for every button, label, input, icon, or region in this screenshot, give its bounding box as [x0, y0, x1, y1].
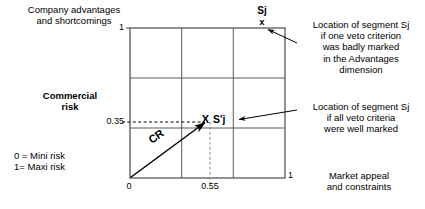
figure-canvas: Company advantages and shortcomings Mark…: [0, 0, 425, 209]
x-axis-title-line1: Market appeal: [329, 170, 389, 181]
annotation-sprimej: Location of segment Sj if all veto crite…: [300, 101, 422, 135]
point-label-sprimej: S'j: [213, 113, 239, 125]
annotation-sprimej-line3: were well marked: [324, 123, 398, 134]
annotation-sj: Location of segment Sj if one veto crite…: [300, 19, 422, 75]
y-axis-tick-035: 0.35: [92, 116, 124, 127]
x-axis-tick-055: 0.55: [196, 181, 224, 192]
y-axis-title-line2: and shortcomings: [37, 15, 112, 26]
point-marker-sj: x: [255, 16, 269, 27]
risk-scale-legend: 0 = Mini risk 1= Maxi risk: [14, 150, 124, 172]
point-marker-sprimej: X: [199, 113, 212, 126]
annotation-sprimej-line2: if all veto criteria: [327, 112, 396, 123]
grid-lines-vertical: [182, 28, 234, 178]
leader-line-sj: [268, 30, 297, 44]
annotation-sj-line4: in the Advantages: [323, 53, 399, 64]
plot-frame: [130, 28, 285, 178]
commercial-risk-label: Commercial risk: [18, 90, 122, 112]
annotation-sj-line5: dimension: [339, 64, 382, 75]
x-axis-title-line2: and constraints: [327, 181, 391, 192]
commercial-risk-line1: Commercial: [43, 90, 97, 101]
cr-vector-arrow: [131, 123, 206, 178]
annotation-sprimej-line1: Location of segment Sj: [313, 101, 410, 112]
x-axis-tick-0: 0: [122, 181, 136, 192]
annotation-sj-line1: Location of segment Sj: [313, 19, 410, 30]
x-axis-title: Market appeal and constraints: [300, 170, 418, 192]
x-axis-tick-1: 1: [288, 170, 300, 181]
risk-legend-line2: 1= Maxi risk: [14, 161, 65, 172]
risk-legend-line1: 0 = Mini risk: [14, 150, 65, 161]
commercial-risk-line2: risk: [62, 101, 79, 112]
annotation-sj-line2: if one veto criterion: [321, 30, 401, 41]
y-axis-title-line1: Company advantages: [28, 4, 120, 15]
leader-line-sprimej: [239, 110, 297, 120]
annotation-sj-line3: was badly marked: [323, 41, 400, 52]
y-axis-tick-1: 1: [108, 22, 124, 33]
